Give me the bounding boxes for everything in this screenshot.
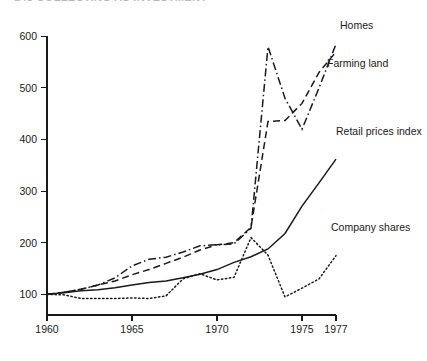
series-line-farming-land bbox=[47, 52, 336, 295]
x-axis-tick-label: 1975 bbox=[290, 323, 314, 335]
series-labels: HomesFarming landRetail prices indexComp… bbox=[327, 19, 423, 233]
y-axis-tick-label: 300 bbox=[19, 185, 37, 197]
series-label-farming-land: Farming land bbox=[327, 57, 388, 69]
y-axis-tick-label: 100 bbox=[19, 288, 37, 300]
series-line-company-shares bbox=[47, 238, 336, 299]
x-axis-tick-label: 1970 bbox=[205, 323, 229, 335]
y-axis-tick-label: 400 bbox=[19, 133, 37, 145]
series-label-retail-prices-index: Retail prices index bbox=[336, 125, 423, 137]
series-label-homes: Homes bbox=[340, 19, 373, 31]
series-line-retail-prices-index bbox=[47, 159, 336, 294]
x-axis-tick-label: 1965 bbox=[120, 323, 144, 335]
series-lines bbox=[47, 44, 336, 298]
y-axis-tick-label: 600 bbox=[19, 30, 37, 42]
figure-container: 148 COLLECTING AS INVESTMENT 10020030040… bbox=[0, 0, 427, 361]
line-chart: 10020030040050060019601965197019751977 H… bbox=[0, 0, 427, 361]
x-axis-tick-label: 1977 bbox=[324, 323, 348, 335]
y-axis-tick-label: 500 bbox=[19, 82, 37, 94]
x-axis-tick-label: 1960 bbox=[35, 323, 59, 335]
series-line-homes bbox=[47, 44, 336, 294]
y-axis-tick-label: 200 bbox=[19, 237, 37, 249]
series-label-company-shares: Company shares bbox=[331, 221, 410, 233]
